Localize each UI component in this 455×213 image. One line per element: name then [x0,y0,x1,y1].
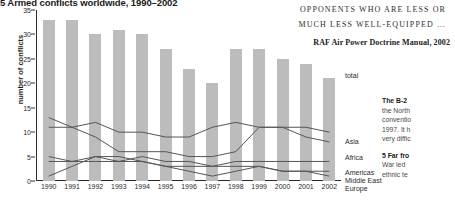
x-tick-label: 1994 [134,183,150,190]
y-tick-mark [31,107,35,108]
side-block2-line-1: ethnic te [382,170,455,180]
y-tick-label: 15 [23,104,31,111]
line-series [49,127,330,156]
line-series [49,117,330,137]
series-label: total [345,72,358,79]
series-lines [37,10,341,181]
series-label: Europe [345,185,368,192]
x-tick-label: 1999 [251,183,267,190]
y-tick-mark [31,156,35,157]
side-article-column: The B-2 the North conventio 1997. It h v… [382,96,455,180]
x-tick-label: 1993 [111,183,127,190]
x-tick-label: 1990 [41,183,57,190]
y-tick-mark [31,132,35,133]
series-label: Middle East [345,177,382,184]
y-tick-mark [31,10,35,11]
y-tick-mark [31,58,35,59]
x-tick-label: 2001 [298,183,314,190]
series-label: Africa [345,154,363,161]
side-block1-line-3: very diffic [382,134,455,144]
x-tick-label: 1998 [228,183,244,190]
y-tick-mark [31,34,35,35]
y-tick-label: 35 [23,7,31,14]
x-axis-labels: 1990199119921993199419951996199719981999… [37,183,347,197]
x-tick-label: 2000 [275,183,291,190]
x-tick-label: 1992 [88,183,104,190]
y-tick-mark [31,181,35,182]
side-block1-line-0: the North [382,106,455,116]
x-tick-label: 2002 [322,183,338,190]
x-tick-label: 1996 [181,183,197,190]
series-label: Asia [345,138,359,145]
armed-conflicts-chart: number of conflicts 05101520253035 19901… [0,10,345,213]
y-tick-label: 25 [23,55,31,62]
x-tick-label: 1997 [205,183,221,190]
side-block1-line-2: 1997. It h [382,125,455,135]
side-block1-heading: The B-2 [382,96,455,106]
side-block1-line-1: conventio [382,115,455,125]
y-tick-label: 30 [23,31,31,38]
side-spacer [382,144,455,151]
y-tick-mark [31,83,35,84]
y-axis-ticks: 05101520253035 [0,10,36,186]
side-block2-line-0: War led [382,160,455,170]
series-label: Americas [345,169,374,176]
x-tick-label: 1991 [64,183,80,190]
x-tick-label: 1995 [158,183,174,190]
plot-area [37,10,341,181]
y-tick-label: 10 [23,129,31,136]
side-block2-heading: 5 Far fro [382,151,455,161]
y-tick-label: 20 [23,80,31,87]
